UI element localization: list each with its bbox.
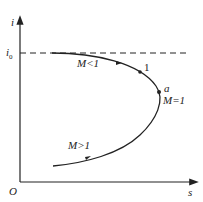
origin-label: O xyxy=(9,186,17,197)
subsonic-label: M<1 xyxy=(77,58,99,69)
sonic-label: M=1 xyxy=(163,95,185,106)
point-1-label: 1 xyxy=(144,62,150,73)
point-a xyxy=(157,90,161,94)
point-1 xyxy=(138,70,142,74)
arrow-subsonic-icon xyxy=(116,61,122,65)
x-axis-label: s xyxy=(188,187,192,198)
supersonic-label: M>1 xyxy=(68,140,90,151)
y-axis-label: i xyxy=(11,17,14,28)
i0-label-sub: 0 xyxy=(9,53,13,61)
diagram: i s O i0 M<1 1 a M=1 M>1 xyxy=(0,0,203,202)
point-a-label: a xyxy=(164,83,170,94)
i0-label: i0 xyxy=(6,47,13,61)
